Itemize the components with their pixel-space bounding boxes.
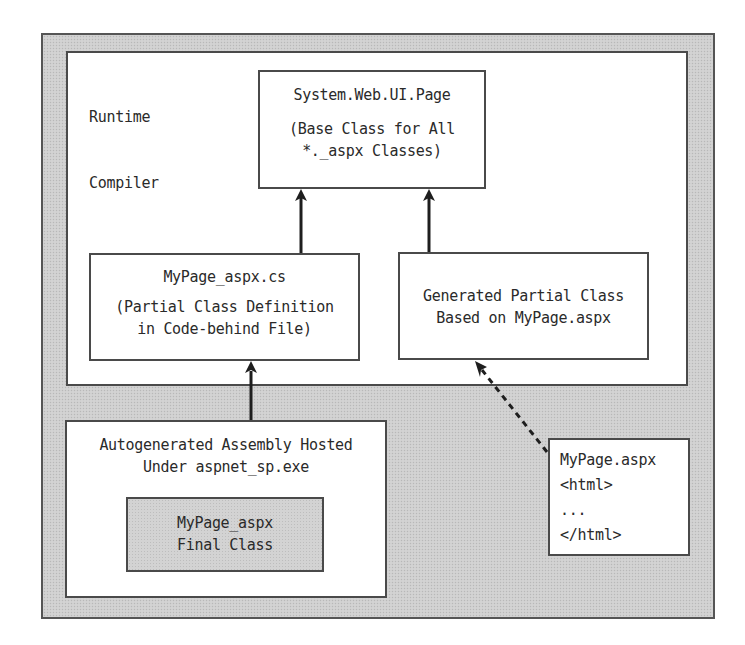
final-class-line-2: Final Class bbox=[128, 534, 322, 556]
codebehind-partial-class-box: MyPage_aspx.cs (Partial Class Definition… bbox=[89, 253, 360, 361]
base-class-box: System.Web.UI.Page (Base Class for All *… bbox=[258, 70, 486, 189]
assembly-line-2: Under aspnet_sp.exe bbox=[67, 456, 385, 478]
aspx-file-name: MyPage.aspx bbox=[560, 448, 688, 473]
aspx-file-ellipsis: ... bbox=[560, 498, 688, 523]
base-class-subtitle-line-1: (Base Class for All bbox=[260, 118, 484, 140]
final-class-box: MyPage_aspx Final Class bbox=[126, 497, 324, 572]
generated-line-2: Based on MyPage.aspx bbox=[400, 307, 647, 329]
aspx-file-box: MyPage.aspx <html> ... </html> bbox=[548, 438, 690, 556]
runtime-compiler-label: Runtime Compiler bbox=[89, 62, 159, 216]
codebehind-subtitle-line-2: in Code-behind File) bbox=[91, 318, 358, 340]
generated-line-1: Generated Partial Class bbox=[400, 285, 647, 307]
assembly-line-1: Autogenerated Assembly Hosted bbox=[67, 434, 385, 456]
runtime-compiler-label-line-2: Compiler bbox=[89, 172, 159, 194]
runtime-compiler-label-line-1: Runtime bbox=[89, 106, 159, 128]
base-class-title: System.Web.UI.Page bbox=[260, 84, 484, 106]
aspx-file-html-open: <html> bbox=[560, 473, 688, 498]
base-class-subtitle-line-2: *._aspx Classes) bbox=[260, 140, 484, 162]
aspx-file-html-close: </html> bbox=[560, 523, 688, 548]
final-class-line-1: MyPage_aspx bbox=[128, 512, 322, 534]
generated-partial-class-box: Generated Partial Class Based on MyPage.… bbox=[398, 252, 649, 360]
codebehind-subtitle-line-1: (Partial Class Definition bbox=[91, 296, 358, 318]
codebehind-title: MyPage_aspx.cs bbox=[91, 266, 358, 288]
